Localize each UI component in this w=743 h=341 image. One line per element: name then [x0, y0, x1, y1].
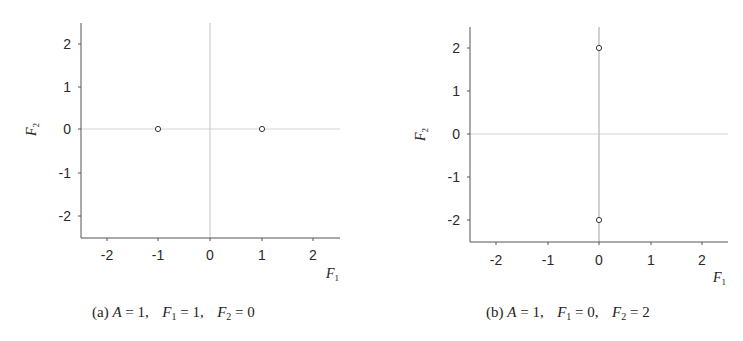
y-tick-label: 2 — [452, 40, 460, 56]
data-point — [259, 126, 264, 131]
x-tick-label: 1 — [647, 252, 655, 268]
caption-a: (a) A = 1, F1 = 1, F2 = 0 — [92, 304, 255, 322]
y-tick-label: 0 — [452, 126, 460, 142]
data-point — [596, 217, 601, 222]
x-tick-label: -2 — [490, 252, 503, 268]
x-tick-label: 2 — [698, 252, 706, 268]
caption-b: (b) A = 1, F1 = 0, F2 = 2 — [486, 304, 650, 322]
x-tick-label: 1 — [258, 247, 266, 263]
panel-a: 2 1 0 -1 -2 -2 -1 0 1 2 F1 F2 (a) A = 1,… — [24, 23, 340, 322]
figure: 2 1 0 -1 -2 -2 -1 0 1 2 F1 F2 (a) A = 1,… — [0, 0, 743, 341]
x-tick-label: -1 — [542, 252, 555, 268]
x-tick-label: 0 — [595, 252, 603, 268]
y-axis-label: F2 — [413, 128, 430, 142]
x-tick-label: -2 — [101, 247, 114, 263]
y-tick-label: 1 — [63, 79, 71, 95]
x-tick-label: 0 — [206, 247, 214, 263]
x-axis-label: F1 — [712, 270, 726, 287]
y-tick-label: -1 — [448, 169, 461, 185]
y-tick-label: 2 — [63, 36, 71, 52]
y-tick-label: 0 — [63, 121, 71, 137]
data-point — [596, 45, 601, 50]
x-tick-label: -1 — [152, 247, 165, 263]
y-tick-label: -2 — [448, 212, 461, 228]
y-tick-label: 1 — [452, 83, 460, 99]
x-tick-label: 2 — [309, 247, 317, 263]
y-axis-label: F2 — [24, 123, 41, 137]
y-tick-label: -2 — [59, 208, 72, 224]
data-point — [155, 126, 160, 131]
y-tick-label: -1 — [59, 165, 72, 181]
x-axis-label: F1 — [325, 266, 339, 283]
panel-b: 2 1 0 -1 -2 -2 -1 0 1 2 F1 F2 (b) A = 1,… — [413, 27, 728, 322]
